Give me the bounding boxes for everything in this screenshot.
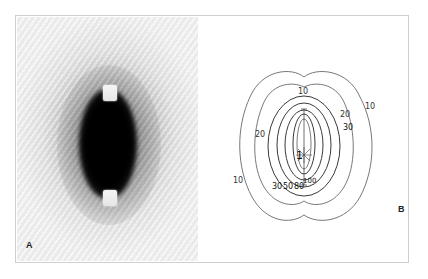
- label-30-bottom: 30: [272, 182, 282, 191]
- label-10-top: 10: [298, 87, 308, 96]
- panel-label-b: B: [398, 204, 405, 214]
- label-1-center: 1: [296, 149, 303, 162]
- dark-exposure-core: [79, 89, 137, 199]
- label-10-left: 10: [233, 176, 243, 185]
- label-20-left: 20: [255, 130, 265, 139]
- isodose-contours: 10 10 10 20 20 30 30 50 80 100 1: [200, 17, 407, 261]
- source-marker-top: [103, 85, 117, 101]
- panel-label-a: A: [26, 240, 33, 250]
- source-marker-bottom: [103, 190, 117, 206]
- label-100-bottom: 100: [303, 177, 316, 185]
- label-10-right: 10: [365, 102, 375, 111]
- panel-b-isodose-plot: 10 10 10 20 20 30 30 50 80 100 1: [200, 17, 407, 261]
- label-20-right: 20: [340, 110, 350, 119]
- label-50-bottom: 50: [283, 182, 293, 191]
- panel-a-film-image: [17, 17, 198, 261]
- label-30-right: 30: [343, 123, 353, 132]
